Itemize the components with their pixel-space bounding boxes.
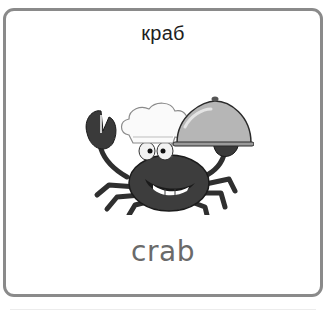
- divider: [10, 309, 316, 310]
- card-word-english: crab: [6, 235, 320, 268]
- crab-chef-icon: [79, 87, 254, 215]
- card-title-russian: краб: [6, 22, 320, 45]
- flashcard: краб: [3, 8, 323, 297]
